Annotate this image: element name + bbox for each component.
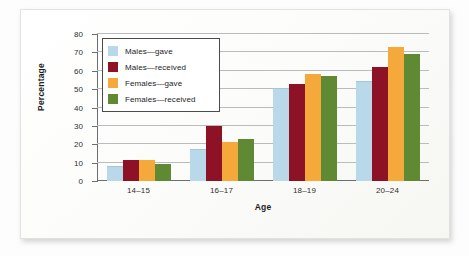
bar <box>289 84 305 181</box>
y-axis-tick-label: 70 <box>43 48 83 57</box>
screenshot-root: 01020304050607080 Percentage Age Males—g… <box>0 0 469 256</box>
bar <box>388 47 404 181</box>
figure-card: 01020304050607080 Percentage Age Males—g… <box>20 9 450 239</box>
y-axis-tick-label: 80 <box>43 30 83 39</box>
bar <box>107 166 123 181</box>
bar-chart: 01020304050607080 Percentage Age Males—g… <box>21 10 449 238</box>
y-axis-tick-labels: 01020304050607080 <box>43 10 89 238</box>
y-axis-tick-label: 30 <box>43 121 83 130</box>
y-axis-title: Percentage <box>36 39 46 135</box>
bar <box>273 88 289 181</box>
y-axis-tick-label: 10 <box>43 158 83 167</box>
bar-group <box>356 34 420 181</box>
legend-item-label: Males—gave <box>125 47 173 56</box>
y-axis-tick-label: 50 <box>43 85 83 94</box>
legend-color-swatch <box>108 62 118 72</box>
legend-item-label: Females—gave <box>125 79 182 88</box>
legend-item-label: Males—received <box>125 63 186 72</box>
bar <box>372 67 388 181</box>
bar <box>123 160 139 181</box>
bar <box>238 139 254 181</box>
bar-group <box>273 34 337 181</box>
x-axis-tick-label: 16–17 <box>187 186 257 195</box>
legend-color-swatch <box>108 78 118 88</box>
bar <box>190 149 206 181</box>
chart-legend: Males—gaveMales—receivedFemales—gaveFema… <box>102 38 220 112</box>
legend-item: Females—gave <box>108 75 214 91</box>
legend-item-label: Females—received <box>125 95 196 104</box>
x-axis-tick-label: 14–15 <box>104 186 174 195</box>
legend-item: Females—received <box>108 91 214 107</box>
bar <box>222 142 238 181</box>
legend-item: Males—received <box>108 59 214 75</box>
x-axis-title: Age <box>97 202 429 212</box>
x-axis-tick-label: 18–19 <box>270 186 340 195</box>
y-axis-tick-label: 20 <box>43 140 83 149</box>
y-axis-tick-label: 0 <box>43 177 83 186</box>
bar <box>404 54 420 181</box>
y-axis-tick-label: 40 <box>43 103 83 112</box>
x-axis-tick-label: 20–24 <box>353 186 423 195</box>
bar <box>139 160 155 181</box>
bar <box>356 81 372 181</box>
legend-color-swatch <box>108 46 118 56</box>
bar <box>321 76 337 181</box>
legend-color-swatch <box>108 94 118 104</box>
bar <box>305 74 321 181</box>
legend-item: Males—gave <box>108 43 214 59</box>
bar <box>155 164 171 181</box>
bar <box>206 126 222 181</box>
y-axis-tick-label: 60 <box>43 66 83 75</box>
